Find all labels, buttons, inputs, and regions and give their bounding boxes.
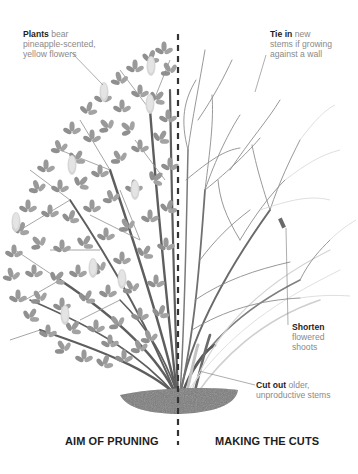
- annotation-shorten: Shorten flowered shoots: [292, 322, 324, 353]
- right-stems: [180, 150, 340, 395]
- pruning-diagram: Plants bear pineapple-scented, yellow fl…: [0, 0, 358, 474]
- leader-lines: [71, 52, 288, 385]
- annotation-tie-in: Tie in new stems if growing against a wa…: [270, 29, 332, 60]
- caption-aim-of-pruning: AIM OF PRUNING: [65, 435, 159, 447]
- annotation-cut-out: Cut out older, unproductive stems: [256, 380, 331, 400]
- cut-mark: [278, 218, 286, 229]
- annotation-plants: Plants bear pineapple-scented, yellow fl…: [23, 29, 96, 60]
- caption-making-the-cuts: MAKING THE CUTS: [215, 435, 319, 447]
- left-foliage: [0, 42, 181, 372]
- right-faint-twigs: [260, 105, 356, 298]
- shrub-illustration: [0, 0, 358, 474]
